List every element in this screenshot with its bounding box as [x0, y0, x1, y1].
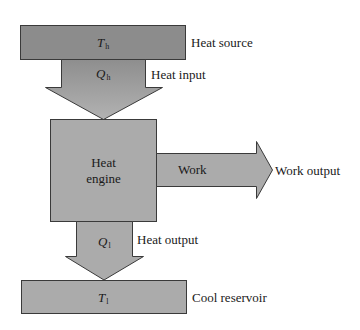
heat-input-label: Heat input	[151, 68, 206, 81]
heat-output-label: Heat output	[137, 233, 198, 246]
symbol-subscript: l	[108, 241, 110, 250]
work-output-label: Work output	[275, 164, 340, 177]
heat-output-symbol: Ql	[98, 235, 111, 250]
heat-output-arrow	[66, 222, 144, 281]
heat-source-symbol: Th	[97, 36, 109, 51]
heat-engine-label: Heat engine	[50, 155, 157, 187]
symbol-letter: Q	[96, 66, 105, 81]
symbol-letter: T	[97, 35, 104, 50]
symbol-subscript: h	[105, 42, 109, 51]
cool-reservoir-symbol: Tl	[98, 291, 108, 306]
symbol-letter: T	[98, 290, 105, 305]
engine-label-line2: engine	[50, 171, 157, 187]
heat-source-label: Heat source	[191, 36, 253, 49]
symbol-letter: Q	[98, 234, 107, 249]
work-inner-label: Work	[178, 163, 207, 176]
symbol-subscript: l	[106, 297, 108, 306]
work-arrow	[157, 142, 273, 199]
engine-label-line1: Heat	[50, 155, 157, 171]
symbol-subscript: h	[106, 73, 110, 82]
heat-input-symbol: Qh	[96, 67, 110, 82]
cool-reservoir-label: Cool reservoir	[192, 291, 267, 304]
